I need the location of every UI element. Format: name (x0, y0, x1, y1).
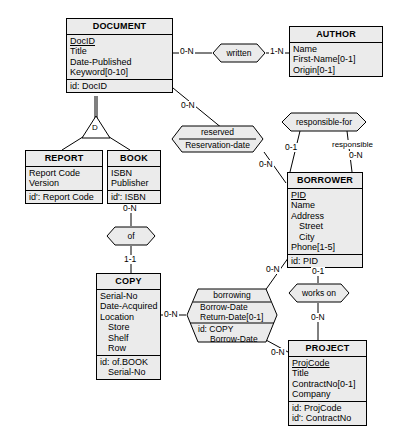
relationship-responsible-for-name: responsible-for (296, 117, 352, 127)
attribute: Shelf (97, 333, 160, 344)
cardinality-project-works-on: 0-N (310, 313, 326, 322)
attribute: ProjCode (289, 358, 366, 369)
relationship-written-name: written (226, 48, 251, 58)
entity-report-attributes: Report Code Version (26, 167, 102, 190)
relationship-reserved[interactable]: reserved Reservation-date (171, 125, 264, 153)
relationship-borrowing[interactable]: borrowing Borrow-Date Return-Date[0-1] i… (186, 288, 278, 343)
entity-book[interactable]: BOOK ISBN Publisher id': ISBN (107, 150, 161, 204)
relationship-responsible-for[interactable]: responsible-for (281, 112, 367, 132)
relationship-of[interactable]: of (106, 226, 156, 246)
identifier: id': Report Code (26, 192, 102, 203)
cardinality-borrower-borrowing: 0-N (265, 265, 281, 274)
entity-borrower-attributes: PID Name Address Street City Phone[1-5] (288, 189, 362, 254)
attribute: PID (288, 190, 362, 201)
attribute: ISBN (108, 168, 160, 179)
entity-book-name: BOOK (108, 151, 160, 167)
attribute: ContractNo[0-1] (289, 379, 366, 390)
cardinality-project-borrowing: 0-N (270, 348, 286, 357)
relationship-attribute: Borrow-Date (200, 302, 278, 312)
entity-book-attributes: ISBN Publisher (108, 167, 160, 190)
attribute: Name (288, 200, 362, 211)
specialization-disjoint-label: D (92, 123, 98, 132)
cardinality-borrower-works-on: 0-1 (311, 267, 325, 276)
attribute: Serial-No (97, 291, 160, 302)
relationship-written[interactable]: written (212, 43, 266, 63)
attribute: Date-Acquired (97, 301, 160, 312)
attribute: City (288, 232, 362, 243)
attribute: Origin[0-1] (290, 65, 382, 76)
er-diagram-canvas: DOCUMENT DocID Title Date-Published Keyw… (0, 0, 395, 438)
attribute: Keyword[0-10] (67, 67, 172, 78)
attribute: Store (97, 322, 160, 333)
entity-borrower-name: BORROWER (288, 173, 362, 189)
identifier: Serial-No (97, 367, 160, 378)
cardinality-document-written: 0-N (179, 47, 195, 56)
attribute: Title (289, 368, 366, 379)
role-responsible: responsible (331, 140, 374, 149)
attribute: Location (97, 312, 160, 323)
attribute: Row (97, 343, 160, 354)
attribute: Publisher (108, 178, 160, 189)
entity-document-attributes: DocID Title Date-Published Keyword[0-10] (67, 35, 172, 79)
attribute: Title (67, 46, 172, 57)
entity-borrower[interactable]: BORROWER PID Name Address Street City Ph… (287, 172, 363, 268)
entity-author-name: AUTHOR (290, 27, 382, 43)
attribute: Name (290, 44, 382, 55)
identifier: id: DocID (67, 81, 172, 92)
entity-copy-name: COPY (97, 274, 160, 290)
identifier: id: ProjCode (289, 403, 366, 414)
entity-document-name: DOCUMENT (67, 19, 172, 35)
relationship-borrowing-name: borrowing (213, 290, 250, 300)
cardinality-borrower-reserved: 0-N (258, 160, 274, 169)
attribute: Report Code (26, 168, 102, 179)
cardinality-responsible-for-left: 0-1 (284, 143, 298, 152)
cardinality-copy-of: 1-1 (123, 255, 137, 264)
relationship-reserved-name: reserved (201, 127, 234, 137)
entity-book-identifiers: id': ISBN (108, 190, 160, 204)
entity-copy-attributes: Serial-No Date-Acquired Location Store S… (97, 290, 160, 355)
entity-document-identifiers: id: DocID (67, 79, 172, 93)
attribute: Street (288, 221, 362, 232)
attribute: Date-Published (67, 57, 172, 68)
relationship-of-name: of (127, 231, 134, 241)
relationship-identifier: Borrow-Date (198, 334, 278, 344)
entity-report-name: REPORT (26, 151, 102, 167)
attribute: First-Name[0-1] (290, 54, 382, 65)
entity-report-identifiers: id': Report Code (26, 190, 102, 204)
identifier: id': ContractNo (289, 413, 366, 424)
entity-copy-identifiers: id: of.BOOK Serial-No (97, 355, 160, 379)
entity-borrower-identifiers: id: PID (288, 254, 362, 268)
entity-project-attributes: ProjCode Title ContractNo[0-1] Company (289, 357, 366, 401)
entity-project-identifiers: id: ProjCode id': ContractNo (289, 401, 366, 425)
cardinality-responsible-for-right: 0-N (348, 151, 364, 160)
relationship-works-on[interactable]: works on (288, 283, 350, 303)
entity-report[interactable]: REPORT Report Code Version id': Report C… (25, 150, 103, 204)
relationship-identifier: id: COPY (198, 324, 278, 334)
identifier: id: of.BOOK (97, 357, 160, 368)
relationship-attribute: Return-Date[0-1] (200, 312, 278, 322)
attribute: Version (26, 178, 102, 189)
attribute: Address (288, 211, 362, 222)
cardinality-author-written: 1-N (269, 47, 285, 56)
entity-copy[interactable]: COPY Serial-No Date-Acquired Location St… (96, 273, 161, 380)
entity-author[interactable]: AUTHOR Name First-Name[0-1] Origin[0-1] (289, 26, 383, 77)
entity-project-name: PROJECT (289, 341, 366, 357)
identifier: id': ISBN (108, 192, 160, 203)
entity-document[interactable]: DOCUMENT DocID Title Date-Published Keyw… (66, 18, 173, 93)
attribute: DocID (67, 36, 172, 47)
entity-author-attributes: Name First-Name[0-1] Origin[0-1] (290, 43, 382, 77)
attribute: Company (289, 389, 366, 400)
relationship-reserved-attribute: Reservation-date (185, 140, 250, 150)
cardinality-book-of: 0-N (122, 204, 138, 213)
cardinality-document-reserved: 0-N (180, 101, 196, 110)
attribute: Phone[1-5] (288, 242, 362, 253)
identifier: id: PID (288, 256, 362, 267)
entity-project[interactable]: PROJECT ProjCode Title ContractNo[0-1] C… (288, 340, 367, 426)
cardinality-copy-borrowing: 0-N (163, 310, 179, 319)
relationship-works-on-name: works on (302, 288, 336, 298)
